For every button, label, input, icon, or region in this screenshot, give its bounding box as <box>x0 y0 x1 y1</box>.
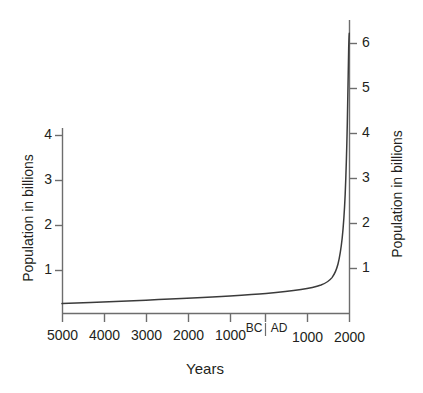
left-ytick-label-2: 2 <box>32 216 52 232</box>
x-axis-title: Years <box>160 360 250 377</box>
left-ytick-label-1: 1 <box>32 261 52 277</box>
xtick-label-5000bc: 5000 <box>40 327 85 343</box>
left-ytick-label-4: 4 <box>32 126 52 142</box>
xtick-label-2000bc: 2000 <box>166 327 211 343</box>
right-axis-ticks <box>349 44 357 269</box>
right-ytick-label-6: 6 <box>362 34 382 50</box>
right-ytick-label-5: 5 <box>362 79 382 95</box>
population-chart-figure: Population in billions Population in bil… <box>0 0 423 393</box>
xtick-label-1000ad: 1000 <box>285 329 330 345</box>
xtick-label-2000ad: 2000 <box>327 329 372 345</box>
era-label-bc: BC <box>243 321 265 335</box>
xtick-label-3000bc: 3000 <box>124 327 169 343</box>
xtick-label-4000bc: 4000 <box>82 327 127 343</box>
left-ytick-label-3: 3 <box>32 171 52 187</box>
population-curve <box>62 33 349 303</box>
right-ytick-label-4: 4 <box>362 124 382 140</box>
bottom-axis-ticks <box>63 313 350 322</box>
right-y-axis-title: Population in billions <box>389 104 405 284</box>
right-ytick-label-1: 1 <box>362 259 382 275</box>
right-ytick-label-3: 3 <box>362 169 382 185</box>
right-ytick-label-2: 2 <box>362 214 382 230</box>
